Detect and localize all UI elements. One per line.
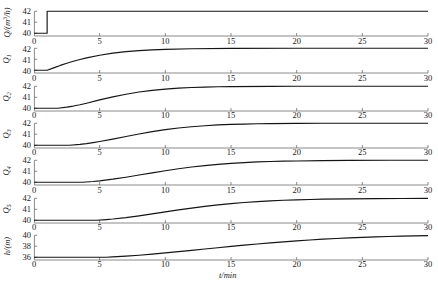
y-tick-labels-2: 404142 xyxy=(14,45,32,73)
x-tick: 5 xyxy=(98,37,102,46)
figure-container: Q/(m3/h)404142Q1404142Q2404142Q3404142Q4… xyxy=(0,0,438,300)
y-tick: 41 xyxy=(23,18,32,27)
axis-spines xyxy=(34,11,428,36)
x-tick: 25 xyxy=(358,37,367,46)
x-tick: 5 xyxy=(98,74,102,83)
x-tick: 0 xyxy=(32,37,36,46)
x-tick: 20 xyxy=(292,111,301,120)
x-tick: 20 xyxy=(292,223,301,232)
x-tick: 0 xyxy=(32,186,36,195)
x-tick: 0 xyxy=(32,260,36,269)
x-tick: 5 xyxy=(98,111,102,120)
y-tick: 41 xyxy=(23,93,32,102)
y-tick: 40 xyxy=(23,29,32,38)
x-tick-labels-4: 051015202530 xyxy=(34,148,428,159)
axis-spines xyxy=(34,198,428,223)
x-tick: 25 xyxy=(358,148,367,157)
plot-panel-4: Q3404142 xyxy=(0,120,438,148)
plot-area-5 xyxy=(34,157,428,185)
x-tick: 15 xyxy=(227,74,236,83)
data-curve-1 xyxy=(34,11,428,33)
plot-panel-6: Q5404142 xyxy=(0,195,438,223)
plot-area-2 xyxy=(34,45,428,73)
x-tick: 30 xyxy=(424,148,433,157)
data-curve-6 xyxy=(34,198,428,220)
plot-area-3 xyxy=(34,83,428,111)
y-tick: 40 xyxy=(23,141,32,150)
y-tick: 40 xyxy=(23,216,32,225)
y-tick: 41 xyxy=(23,167,32,176)
y-tick-labels-1: 404142 xyxy=(14,8,32,36)
x-tick: 10 xyxy=(161,148,170,157)
y-tick: 42 xyxy=(23,194,32,203)
x-tick: 20 xyxy=(292,148,301,157)
x-tick: 30 xyxy=(424,223,433,232)
x-tick: 0 xyxy=(32,74,36,83)
plot-panel-7: h/(m)363840 xyxy=(0,232,438,260)
x-tick: 5 xyxy=(98,186,102,195)
x-tick-labels-2: 051015202530 xyxy=(34,74,428,85)
x-tick-labels-5: 051015202530 xyxy=(34,186,428,197)
x-tick: 10 xyxy=(161,74,170,83)
plot-panel-3: Q2404142 xyxy=(0,83,438,111)
x-tick-labels-3: 051015202530 xyxy=(34,111,428,122)
x-tick: 25 xyxy=(358,74,367,83)
y-axis-label-7: h/(m) xyxy=(0,232,14,260)
x-tick: 20 xyxy=(292,186,301,195)
y-tick: 41 xyxy=(23,130,32,139)
y-tick: 40 xyxy=(23,66,32,75)
y-tick: 42 xyxy=(23,7,32,16)
plot-panel-2: Q1404142 xyxy=(0,45,438,73)
y-tick: 36 xyxy=(23,253,32,262)
y-tick: 42 xyxy=(23,44,32,53)
data-curve-3 xyxy=(34,86,428,108)
data-curve-2 xyxy=(34,49,428,71)
x-tick: 15 xyxy=(227,37,236,46)
x-tick: 15 xyxy=(227,260,236,269)
y-tick-labels-6: 404142 xyxy=(14,195,32,223)
y-tick-labels-5: 404142 xyxy=(14,157,32,185)
axis-spines xyxy=(34,86,428,111)
x-tick: 10 xyxy=(161,223,170,232)
x-tick: 20 xyxy=(292,74,301,83)
y-tick: 40 xyxy=(23,231,32,240)
plot-area-6 xyxy=(34,195,428,223)
data-curve-5 xyxy=(34,160,428,182)
x-tick: 25 xyxy=(358,260,367,269)
x-tick-labels-6: 051015202530 xyxy=(34,223,428,234)
x-tick: 0 xyxy=(32,148,36,157)
axis-spines xyxy=(34,123,428,148)
x-tick: 0 xyxy=(32,223,36,232)
x-tick: 25 xyxy=(358,111,367,120)
x-tick: 5 xyxy=(98,223,102,232)
data-curve-4 xyxy=(34,123,428,145)
y-tick: 41 xyxy=(23,205,32,214)
x-tick: 10 xyxy=(161,111,170,120)
plot-area-7 xyxy=(34,232,428,260)
x-tick: 30 xyxy=(424,260,433,269)
y-tick: 38 xyxy=(23,242,32,251)
x-tick-labels-7: 051015202530 xyxy=(34,260,428,271)
y-axis-label-2: Q1 xyxy=(0,45,14,73)
x-tick-labels-1: 051015202530 xyxy=(34,37,428,48)
x-tick: 30 xyxy=(424,74,433,83)
y-axis-label-3: Q2 xyxy=(0,83,14,111)
x-tick: 15 xyxy=(227,186,236,195)
y-tick: 40 xyxy=(23,104,32,113)
y-tick-labels-7: 363840 xyxy=(14,232,32,260)
y-tick: 42 xyxy=(23,82,32,91)
plot-area-4 xyxy=(34,120,428,148)
x-tick: 10 xyxy=(161,260,170,269)
y-tick: 40 xyxy=(23,178,32,187)
x-tick: 30 xyxy=(424,186,433,195)
y-tick: 42 xyxy=(23,156,32,165)
x-tick: 15 xyxy=(227,111,236,120)
x-tick: 25 xyxy=(358,223,367,232)
x-tick: 15 xyxy=(227,148,236,157)
x-tick: 30 xyxy=(424,37,433,46)
data-curve-7 xyxy=(34,235,428,257)
plot-area-1 xyxy=(34,8,428,36)
x-tick: 20 xyxy=(292,260,301,269)
plot-panel-5: Q4404142 xyxy=(0,157,438,185)
y-tick: 42 xyxy=(23,119,32,128)
